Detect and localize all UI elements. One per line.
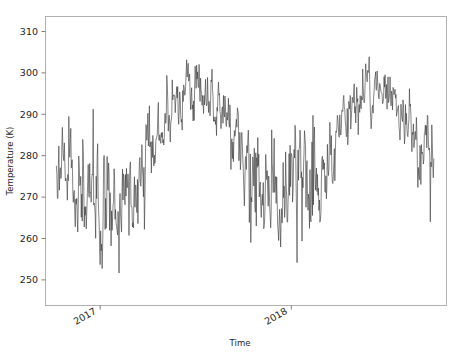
y-tick-label: 280: [20, 150, 38, 161]
y-tick-label: 260: [20, 233, 38, 244]
y-tick-label: 300: [20, 67, 38, 78]
y-tick-label: 310: [20, 26, 38, 37]
x-axis-label: Time: [229, 338, 251, 348]
y-tick-label: 250: [20, 274, 38, 285]
y-tick-label: 270: [20, 191, 38, 202]
y-axis-label: Temperature (K): [5, 127, 15, 197]
y-tick-label: 290: [20, 109, 38, 120]
matplotlib-figure: 310 300 290 280 270 260 250 2017 2018 Ti…: [0, 0, 457, 357]
temperature-time-series-chart: 310 300 290 280 270 260 250 2017 2018 Ti…: [0, 0, 457, 357]
